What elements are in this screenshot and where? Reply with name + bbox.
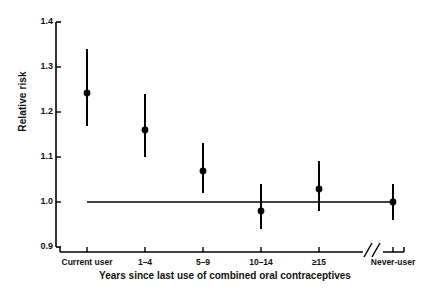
- x-tick-label-never-user: Never-user: [371, 257, 415, 267]
- x-tick-label-5-9: 5–9: [196, 257, 210, 267]
- data-point-current-user: [84, 49, 91, 126]
- x-tick-label-15-plus: ≥15: [312, 257, 326, 267]
- x-tick-label-1-4: 1–4: [138, 257, 152, 267]
- data-point-5-9: [200, 143, 207, 193]
- data-point-10-14: [258, 184, 265, 229]
- x-axis-title: Years since last use of combined oral co…: [60, 270, 390, 281]
- data-point-1-4: [142, 94, 149, 157]
- x-tick-label-10-14: 10–14: [249, 257, 273, 267]
- x-axis-spine: [60, 247, 404, 252]
- data-point-15-plus: [316, 161, 323, 211]
- chart-figure: Relative risk 0.9 1.0 1.1 1.2 1.3 1.4: [0, 0, 430, 291]
- plot-area: [0, 0, 430, 291]
- x-axis-break-icon: [364, 243, 380, 257]
- y-axis-spine: [56, 22, 61, 247]
- data-point-never-user: [390, 184, 397, 220]
- x-tick-label-current-user: Current user: [61, 257, 112, 267]
